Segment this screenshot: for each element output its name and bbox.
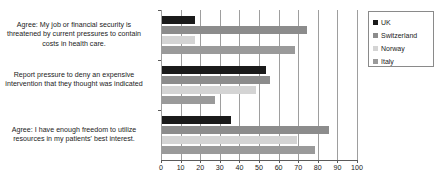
category-label: Agree: I have enough freedom to utilize … — [0, 126, 148, 145]
gridline — [318, 10, 319, 160]
legend-label: Switzerland — [381, 32, 417, 39]
bar-switzerland-group-2 — [162, 76, 270, 84]
gridline — [357, 10, 358, 160]
bar-uk-group-2 — [162, 66, 266, 74]
y-axis-group-tick — [158, 60, 161, 61]
bar-uk-group-1 — [162, 16, 195, 24]
bar-italy-group-2 — [162, 96, 215, 104]
tick-mark — [161, 160, 162, 163]
bar-chart: Agree: My job or financial security is t… — [0, 0, 438, 186]
legend-item-italy[interactable]: Italy — [373, 55, 433, 67]
bar-norway-group-1 — [162, 36, 195, 44]
bar-norway-group-3 — [162, 136, 297, 144]
legend-item-norway[interactable]: Norway — [373, 42, 433, 54]
category-label: Agree: My job or financial security is t… — [0, 21, 148, 49]
tick-mark — [357, 160, 358, 163]
legend-swatch-icon — [373, 59, 378, 64]
tick-mark — [298, 160, 299, 163]
gridline — [337, 10, 338, 160]
legend-item-switzerland[interactable]: Switzerland — [373, 29, 433, 41]
tick-mark — [200, 160, 201, 163]
tick-mark — [279, 160, 280, 163]
plot-area — [161, 10, 357, 160]
bar-italy-group-1 — [162, 46, 295, 54]
category-label-column: Agree: My job or financial security is t… — [0, 8, 152, 160]
legend-swatch-icon — [373, 33, 378, 38]
legend-label: Italy — [381, 58, 394, 65]
x-axis-ticks: 0102030405060708090100 — [161, 160, 361, 176]
bar-italy-group-3 — [162, 146, 315, 154]
bar-switzerland-group-3 — [162, 126, 329, 134]
tick-label: 100 — [345, 164, 369, 172]
category-label: Report pressure to deny an expensive int… — [0, 71, 148, 90]
bar-switzerland-group-1 — [162, 26, 307, 34]
legend-swatch-icon — [373, 20, 378, 25]
bar-norway-group-2 — [162, 86, 256, 94]
tick-mark — [220, 160, 221, 163]
tick-mark — [259, 160, 260, 163]
legend-swatch-icon — [373, 46, 378, 51]
tick-mark — [318, 160, 319, 163]
tick-mark — [239, 160, 240, 163]
tick-mark — [181, 160, 182, 163]
legend-label: UK — [381, 19, 391, 26]
legend-label: Norway — [381, 45, 405, 52]
y-axis-group-tick — [158, 10, 161, 11]
legend: UKSwitzerlandNorwayItaly — [368, 11, 434, 67]
legend-item-uk[interactable]: UK — [373, 16, 433, 28]
y-axis-group-tick — [158, 110, 161, 111]
tick-mark — [337, 160, 338, 163]
bar-uk-group-3 — [162, 116, 231, 124]
